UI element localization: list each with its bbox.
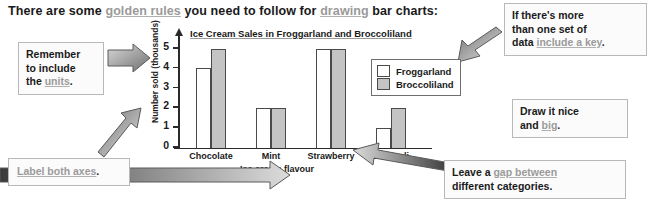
callout-label-axes-link: Label both axes: [17, 165, 96, 177]
category-label-chocolate: Chocolate: [189, 151, 233, 161]
callout-units-line-2: to include: [26, 62, 96, 76]
legend-swatch-froggarland: [377, 65, 390, 77]
x-axis-line: [174, 148, 432, 150]
headline-part-1: There are some: [8, 4, 105, 18]
bar-broccoli-broccoliland: [391, 108, 406, 148]
bar-chocolate-broccoliland: [211, 49, 226, 148]
chart-title: Ice Cream Sales in Froggarland and Brocc…: [190, 28, 412, 39]
bar-strawberry-froggarland: [316, 49, 331, 148]
callout-big-line-2: and big.: [520, 119, 620, 133]
callout-units-post: .: [70, 75, 73, 87]
headline-part-2: you need to follow for: [181, 4, 320, 18]
arrow-key-to-legend: [458, 27, 502, 62]
callout-units-line-1: Remember: [26, 48, 96, 62]
y-tick-0: 0: [173, 146, 179, 148]
arrow-label-axes-to-chart: [98, 108, 141, 157]
headline-part-3: bar charts:: [369, 4, 438, 18]
bar-chart: Ice Cream Sales in Froggarland and Brocc…: [136, 28, 436, 188]
legend-label-froggarland: Froggarland: [396, 66, 451, 77]
callout-big-link: big: [542, 119, 558, 131]
callout-key-line-2: than one set of: [512, 23, 639, 37]
bar-group-strawberry: [316, 49, 346, 148]
y-tick-2: 2: [173, 106, 179, 108]
y-axis-line: [178, 34, 180, 149]
legend-item-broccoliland: Broccoliland: [377, 78, 454, 90]
callout-key-line-1: If there's more: [512, 9, 639, 23]
callout-include-key: If there's more than one set of data inc…: [504, 3, 647, 56]
y-tick-label-4: 4: [163, 60, 169, 73]
category-label-broccoli: Broccoli: [373, 151, 409, 161]
chart-legend: FroggarlandBroccoliland: [371, 59, 461, 96]
y-tick-5: 5: [173, 47, 179, 49]
callout-units-line-3: the units.: [26, 75, 96, 89]
callout-big-post: .: [557, 119, 560, 131]
category-label-strawberry: Strawberry: [307, 151, 354, 161]
callout-label-axes: Label both axes.: [8, 158, 130, 186]
headline-link-drawing: drawing: [320, 4, 369, 18]
callout-gap-pre: Leave a: [452, 166, 493, 178]
legend-label-broccoliland: Broccoliland: [396, 79, 454, 90]
callout-gap-line-2: different categories.: [452, 180, 618, 194]
callout-label-axes-post: .: [96, 165, 99, 177]
bar-group-chocolate: [196, 49, 226, 148]
callout-key-link: include a key: [537, 36, 602, 48]
page-headline: There are some golden rules you need to …: [8, 4, 438, 18]
y-axis-arrowhead: [175, 28, 183, 36]
bar-group-mint: [256, 108, 286, 148]
y-tick-label-5: 5: [163, 40, 169, 53]
callout-key-line-3: data include a key.: [512, 36, 639, 50]
bar-broccoli-froggarland: [376, 128, 391, 148]
headline-link-golden-rules: golden rules: [105, 4, 181, 18]
callout-units-link: units: [45, 75, 70, 87]
y-tick-1: 1: [173, 126, 179, 128]
callout-gap-link: gap between: [493, 166, 557, 178]
callout-big-pre: and: [520, 119, 542, 131]
callout-units: Remember to include the units.: [18, 42, 104, 95]
callout-gap-line-1: Leave a gap between: [452, 166, 618, 180]
callout-key-post: .: [602, 36, 605, 48]
bar-chocolate-froggarland: [196, 68, 211, 147]
y-tick-4: 4: [173, 67, 179, 69]
y-tick-3: 3: [173, 87, 179, 89]
category-label-mint: Mint: [262, 151, 281, 161]
y-tick-label-1: 1: [163, 119, 169, 132]
y-tick-label-3: 3: [163, 80, 169, 93]
bar-mint-froggarland: [256, 108, 271, 148]
callout-units-pre: the: [26, 75, 45, 87]
bar-strawberry-broccoliland: [331, 49, 346, 148]
callout-key-pre: data: [512, 36, 537, 48]
legend-item-froggarland: Froggarland: [377, 65, 454, 77]
bar-group-broccoli: [376, 108, 406, 148]
callout-draw-big: Draw it nice and big.: [512, 99, 628, 138]
bar-mint-broccoliland: [271, 108, 286, 148]
chart-y-axis-label: Number sold (thousands): [150, 27, 160, 123]
callout-leave-gap: Leave a gap between different categories…: [444, 160, 626, 199]
legend-swatch-broccoliland: [377, 78, 390, 90]
y-tick-label-2: 2: [163, 99, 169, 112]
chart-x-axis-label: Ice cream flavour: [240, 164, 314, 174]
y-tick-label-0: 0: [163, 139, 169, 152]
callout-big-line-1: Draw it nice: [520, 105, 620, 119]
